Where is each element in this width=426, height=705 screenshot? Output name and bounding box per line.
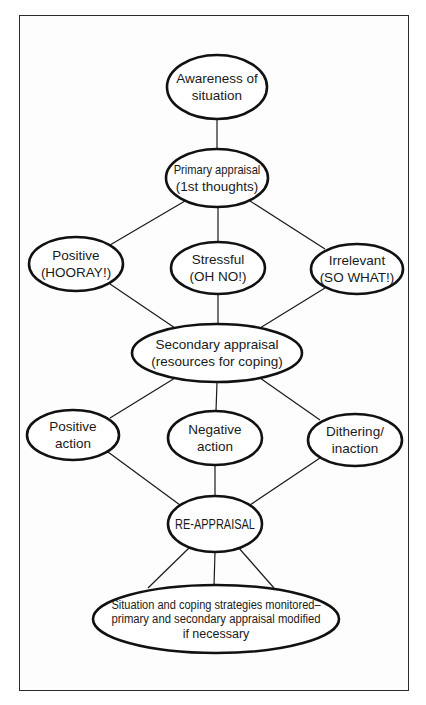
node-label-line: Stressful — [192, 252, 245, 267]
node-label-line: Negative — [188, 422, 241, 437]
edge-primary-to-irrelevant — [250, 201, 325, 249]
node-label-line: (1st thoughts) — [176, 179, 259, 194]
node-reappraisal: RE-APPRAISAL — [168, 496, 262, 552]
node-label-line: (OH NO!) — [190, 269, 247, 284]
node-label-line: Positive — [49, 419, 96, 434]
edge-positive_action-to-reappraisal — [108, 452, 180, 505]
node-dithering: Dithering/inaction — [308, 414, 402, 466]
node-label-line: Dithering/ — [326, 424, 384, 439]
node-label-line: situation — [192, 88, 242, 103]
edge-dithering-to-reappraisal — [250, 458, 320, 505]
edge-secondary-to-dithering — [260, 378, 320, 420]
node-label-line: Awareness of — [176, 71, 258, 86]
node-awareness: Awareness ofsituation — [167, 55, 267, 119]
edge-reappraisal-to-monitored — [238, 547, 274, 588]
edge-secondary-to-positive_action — [110, 378, 175, 418]
node-primary: Primary appraisal(1st thoughts) — [166, 149, 268, 207]
node-irrelevant: Irrelevant(SO WHAT!) — [311, 244, 403, 294]
edge-irrelevant-to-secondary — [260, 288, 325, 328]
node-label-line: action — [55, 436, 91, 451]
node-label-line: inaction — [332, 441, 379, 456]
node-label-line: Situation and coping strategies monitore… — [111, 598, 320, 612]
node-label-line: if necessary — [183, 627, 250, 641]
node-negative-action: Negativeaction — [168, 411, 262, 465]
node-label-line: primary and secondary appraisal modified — [111, 612, 320, 626]
node-label-line: (HOORAY!) — [41, 265, 111, 280]
node-stressful: Stressful(OH NO!) — [171, 242, 265, 294]
stress-appraisal-diagram: Awareness ofsituationPrimary appraisal(1… — [0, 0, 426, 705]
edge-reappraisal-to-monitored — [214, 552, 215, 586]
node-label-line: RE-APPRAISAL — [175, 516, 255, 532]
node-positive-action: Positiveaction — [27, 410, 119, 460]
edge-secondary-to-negative_action — [216, 382, 217, 411]
node-label-line: Irrelevant — [329, 253, 386, 268]
node-secondary: Secondary appraisal(resources for coping… — [132, 324, 302, 382]
node-label-line: (resources for coping) — [151, 354, 282, 369]
node-monitored: Situation and coping strategies monitore… — [93, 585, 339, 653]
node-label-line: Secondary appraisal — [155, 337, 278, 352]
edge-primary-to-positive — [110, 201, 185, 245]
node-label-line: Positive — [52, 248, 99, 263]
edge-positive-to-secondary — [110, 284, 175, 328]
node-label-line: action — [197, 439, 233, 454]
edge-reappraisal-to-monitored — [148, 547, 190, 588]
node-positive: Positive(HOORAY!) — [29, 237, 123, 291]
node-label-line: Primary appraisal — [174, 162, 261, 177]
node-label-line: (SO WHAT!) — [320, 270, 395, 285]
